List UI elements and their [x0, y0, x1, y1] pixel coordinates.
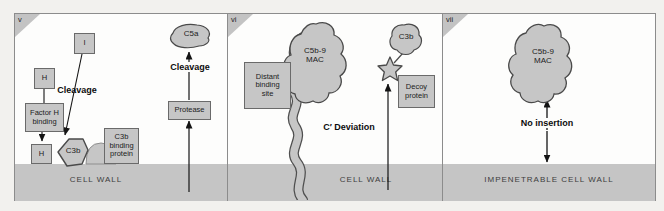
- no-insertion-label: No insertion: [509, 118, 585, 128]
- c5b9-mac-line2-vii: MAC: [515, 56, 571, 65]
- panel-vii: vii IMPENETRABLE CELL WALL C5b-9 MAC No …: [442, 13, 656, 201]
- c5a-blob-label: C5a: [170, 29, 212, 38]
- c3b-binding-protein-line3: protein: [110, 150, 133, 158]
- factor-i-label: I: [83, 39, 85, 47]
- c3b-blob-label: C3b: [61, 146, 85, 155]
- c5b9-mac-label-vi: C5b-9 MAC: [289, 46, 341, 64]
- panel-v: v CELL WALL: [14, 13, 228, 201]
- cleavage-label-left: Cleavage: [49, 85, 105, 95]
- factor-h-label: H: [42, 74, 47, 82]
- distant-binding-site-line3: site: [262, 90, 274, 98]
- cleavage-label-right: Cleavage: [165, 62, 215, 72]
- factor-h-binding-line2: binding: [32, 118, 56, 126]
- decoy-protein-line2: protein: [405, 92, 428, 100]
- c5b9-mac-line1-vii: C5b-9: [515, 47, 571, 56]
- c3b-blob-label-vi: C3b: [390, 32, 422, 41]
- protease-label: Protease: [174, 106, 204, 114]
- c3b-binding-protein-box: C3b binding protein: [104, 128, 139, 164]
- c5b9-mac-line2-vi: MAC: [289, 55, 341, 64]
- panel-v-corner-label: v: [18, 15, 22, 24]
- h-anchor-label: H: [39, 150, 44, 158]
- distant-binding-site-box: Distant binding site: [244, 62, 291, 109]
- figure-complement-evasion: v CELL WALL: [0, 0, 664, 211]
- h-anchor-box: H: [31, 144, 52, 164]
- decoy-protein-box: Decoy protein: [398, 75, 435, 108]
- factor-h-binding-box: Factor H binding: [25, 103, 64, 132]
- protease-box: Protease: [168, 101, 211, 120]
- decoy-to-c3b-link: [394, 53, 403, 63]
- panel-vi: vi CELL WALL Distant b: [227, 13, 443, 201]
- c5b9-mac-label-vii: C5b-9 MAC: [515, 47, 571, 65]
- panel-vii-corner-label: vii: [446, 15, 453, 24]
- c-deviation-label: C′ Deviation: [314, 122, 384, 132]
- c5b9-mac-line1-vi: C5b-9: [289, 46, 341, 55]
- factor-i-box: I: [74, 33, 95, 54]
- panel-vi-corner-label: vi: [231, 15, 236, 24]
- panel-vii-graphics: [443, 14, 655, 200]
